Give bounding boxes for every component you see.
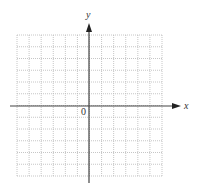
x-axis-label: x — [183, 100, 189, 111]
y-axis-label: y — [85, 9, 91, 20]
x-axis-arrow-icon — [172, 103, 181, 109]
coordinate-plane: x y 0 — [0, 0, 197, 189]
y-axis-arrow-icon — [86, 23, 92, 32]
origin-label: 0 — [81, 106, 86, 117]
